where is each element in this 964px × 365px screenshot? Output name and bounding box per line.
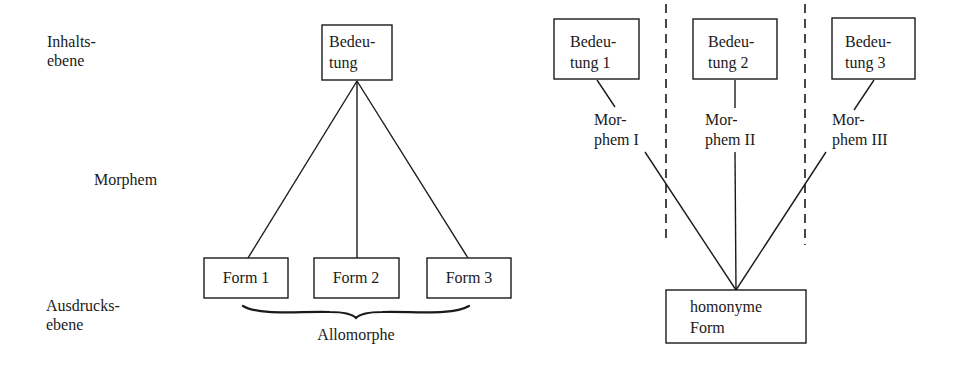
form-box-3-label: Form 3 — [446, 269, 493, 286]
morpheme-label-1-line-2: phem I — [594, 131, 639, 149]
edge-morpheme-3-form — [736, 152, 826, 290]
form-box-3: Form 3 — [427, 258, 511, 298]
homonymy-diagram: Bedeu- tung 1 Bedeu- tung 2 Bedeu- tung … — [554, 4, 915, 343]
meaning-box-2-line-2: tung 2 — [708, 54, 748, 72]
meaning-box-3-line-1: Bedeu- — [845, 33, 891, 50]
meaning-box-3-line-2: tung 3 — [845, 54, 885, 72]
morpheme-label-3-line-1: Mor- — [832, 111, 865, 128]
form-box-1: Form 1 — [204, 258, 288, 298]
allomorph-brace — [243, 306, 469, 318]
form-box-1-label: Form 1 — [223, 269, 270, 286]
homonymous-form-box: homonyme Form — [666, 290, 806, 343]
morpheme-label-3: Mor- phem III — [832, 111, 888, 149]
morpheme-label-2-line-2: phem II — [705, 131, 755, 149]
morpheme-diagram: Inhalts- ebene Morphem Ausdrucks- ebene … — [0, 0, 964, 365]
edge-meaning-form-1 — [248, 81, 357, 258]
form-box-2-label: Form 2 — [333, 269, 380, 286]
meaning-box-1-line-1: Bedeu- — [570, 33, 616, 50]
edge-meaning-3-morpheme-3 — [854, 80, 874, 110]
meaning-box-2: Bedeu- tung 2 — [693, 19, 777, 79]
form-box-2: Form 2 — [314, 258, 399, 298]
morpheme-label-3-line-2: phem III — [832, 131, 888, 149]
morpheme-label-2: Mor- phem II — [705, 111, 755, 149]
allomorphy-diagram: Inhalts- ebene Morphem Ausdrucks- ebene … — [46, 25, 511, 344]
meaning-box-1: Bedeu- tung 1 — [554, 19, 639, 79]
morpheme-level-label: Morphem — [94, 171, 158, 189]
morpheme-label-1-line-1: Mor- — [594, 111, 627, 128]
meaning-box: Bedeu- tung — [322, 25, 392, 80]
meaning-box-line-2: tung — [329, 54, 357, 72]
morpheme-label-1: Mor- phem I — [594, 111, 639, 149]
content-level-label: Inhalts- ebene — [47, 33, 96, 69]
edge-meaning-form-3 — [357, 81, 468, 258]
meaning-box-line-1: Bedeu- — [329, 33, 375, 50]
content-level-line-2: ebene — [47, 52, 84, 69]
expression-level-label: Ausdrucks- ebene — [46, 297, 120, 333]
homonymous-form-line-1: homonyme — [690, 298, 762, 316]
homonymous-form-line-2: Form — [690, 319, 725, 336]
meaning-box-3: Bedeu- tung 3 — [832, 18, 915, 79]
meaning-box-2-line-1: Bedeu- — [708, 33, 754, 50]
allomorph-label: Allomorphe — [317, 326, 394, 344]
expression-level-line-1: Ausdrucks- — [46, 297, 120, 314]
edge-morpheme-2-form — [735, 152, 736, 290]
meaning-box-1-line-2: tung 1 — [570, 54, 610, 72]
edge-meaning-1-morpheme-1 — [597, 80, 615, 107]
edge-morpheme-1-form — [645, 152, 736, 290]
content-level-line-1: Inhalts- — [47, 33, 96, 50]
morpheme-label-2-line-1: Mor- — [705, 111, 738, 128]
expression-level-line-2: ebene — [46, 316, 83, 333]
